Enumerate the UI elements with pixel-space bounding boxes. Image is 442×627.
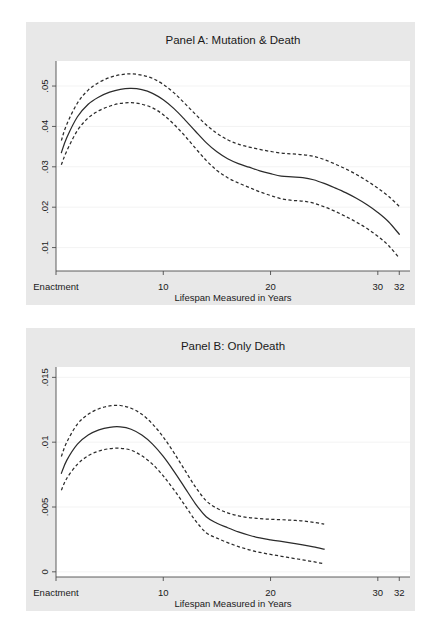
y-tick-label-0: .01 — [39, 241, 50, 254]
x-tick-label-4: 32 — [394, 281, 405, 292]
y-tick-label-1: .005 — [39, 498, 50, 517]
x-tick-label-0: Enactment — [33, 281, 79, 292]
x-tick-label-2: 20 — [265, 587, 276, 598]
x-tick-label-1: 10 — [158, 587, 169, 598]
y-tick-label-4: .05 — [39, 79, 50, 92]
x-tick-label-3: 30 — [373, 587, 384, 598]
y-tick-label-0: 0 — [39, 569, 50, 574]
x-tick-label-0: Enactment — [33, 587, 79, 598]
y-tick-label-2: .01 — [39, 436, 50, 449]
chart-panel-a: Panel A: Mutation & Death.01.02.03.04.05… — [26, 22, 415, 305]
panel-a-svg: Panel A: Mutation & Death.01.02.03.04.05… — [26, 22, 415, 305]
y-tick-label-3: .04 — [39, 120, 50, 133]
x-tick-label-1: 10 — [158, 281, 169, 292]
panel-title: Panel A: Mutation & Death — [166, 34, 301, 46]
y-tick-label-3: .015 — [39, 368, 50, 387]
panel-b-svg: Panel B: Only Death0.005.01.015Enactment… — [26, 328, 415, 611]
y-tick-label-2: .03 — [39, 160, 50, 173]
chart-panel-b: Panel B: Only Death0.005.01.015Enactment… — [26, 328, 415, 611]
y-tick-label-1: .02 — [39, 201, 50, 214]
x-tick-label-2: 20 — [265, 281, 276, 292]
panel-title: Panel B: Only Death — [181, 340, 285, 352]
x-axis-title: Lifespan Measured in Years — [174, 292, 291, 303]
plot-background — [56, 367, 410, 577]
x-tick-label-3: 30 — [373, 281, 384, 292]
x-axis-title: Lifespan Measured in Years — [174, 598, 291, 609]
x-tick-label-4: 32 — [394, 587, 405, 598]
figure-container: Panel A: Mutation & Death.01.02.03.04.05… — [0, 0, 442, 627]
